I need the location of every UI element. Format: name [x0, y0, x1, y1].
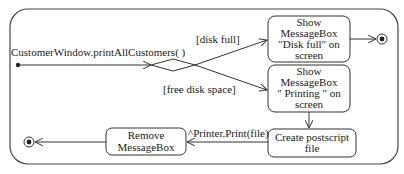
trigger-label: CustomerWindow.printAllCustomers( ) — [11, 46, 186, 59]
svg-text:Remove: Remove — [128, 129, 165, 141]
decision-diamond-icon — [151, 59, 195, 71]
state-create-postscript: Create postscript file — [268, 129, 356, 157]
guard-free-disk-space: [free disk space] — [163, 83, 236, 95]
svg-text:screen: screen — [295, 49, 324, 61]
event-printer-print: ^Printer.Print(file) — [188, 127, 269, 140]
state-show-printing: Show MessageBox " Printing " on screen — [268, 65, 350, 112]
svg-text:MessageBox: MessageBox — [118, 141, 175, 153]
activity-diagram: CustomerWindow.printAllCustomers( ) [dis… — [0, 0, 404, 174]
state-remove-messagebox: Remove MessageBox — [106, 128, 186, 155]
state-show-disk-full: Show MessageBox "Disk full" on screen — [268, 16, 350, 62]
guard-disk-full: [disk full] — [196, 33, 240, 45]
svg-text:screen: screen — [295, 98, 324, 110]
final-state-icon — [24, 137, 34, 147]
final-state-icon — [377, 34, 387, 44]
svg-text:file: file — [305, 142, 320, 154]
